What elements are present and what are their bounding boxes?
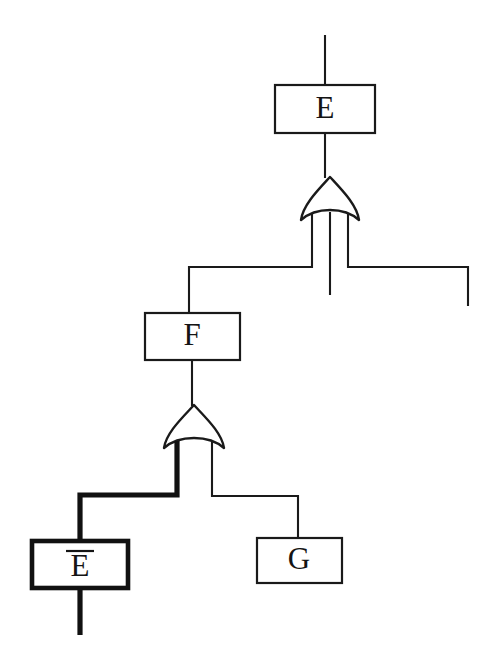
top-gate-right-dangling-wire xyxy=(348,267,468,306)
fault-tree-diagram: E F E G xyxy=(0,0,494,663)
top-event-label: E xyxy=(316,90,335,125)
basic-event-g-label: G xyxy=(288,541,310,576)
intermediate-event-label: F xyxy=(183,317,200,352)
lower-gate-to-g-wire xyxy=(212,442,298,538)
lower-or-gate[interactable] xyxy=(164,405,224,448)
basic-event-negated-label: E xyxy=(71,548,90,583)
highlighted-cutset-path xyxy=(80,441,177,541)
top-gate-to-f-wire xyxy=(189,267,312,313)
fault-tree-canvas: E F E G xyxy=(0,0,494,663)
